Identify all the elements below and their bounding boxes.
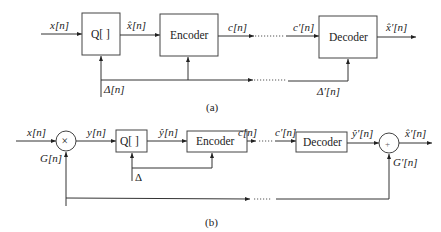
received-gain-label: G′[n] bbox=[393, 156, 417, 168]
quantized-label-a: x̂[n] bbox=[126, 19, 146, 31]
caption-b: (b) bbox=[205, 216, 218, 229]
gain-line bbox=[66, 198, 250, 199]
input-label-b: x[n] bbox=[26, 126, 46, 138]
decoder-label-a: Decoder bbox=[329, 31, 368, 43]
diagram-b: x[n] × G[n] y[n] Q[ ] ŷ[n] Encoder c[n] … bbox=[16, 126, 432, 229]
code-label-b: c[n] bbox=[238, 126, 257, 138]
plus-icon: + bbox=[385, 139, 390, 149]
code-label-a: c[n] bbox=[228, 21, 247, 33]
decoded-label: ŷ′[n] bbox=[351, 127, 373, 139]
caption-a: (a) bbox=[206, 101, 219, 114]
received-code-label-a: c′[n] bbox=[293, 21, 314, 33]
quantized-label-b: ŷ[n] bbox=[158, 126, 178, 138]
received-step-label-a: Δ′[n] bbox=[316, 85, 340, 97]
gain-label: G[n] bbox=[40, 152, 62, 164]
encoder-label-b: Encoder bbox=[196, 135, 234, 147]
input-label-a: x[n] bbox=[49, 19, 69, 31]
decoder-label-b: Decoder bbox=[303, 136, 342, 148]
step-label-a: Δ[n] bbox=[103, 83, 125, 95]
step-label-b: Δ bbox=[135, 171, 142, 183]
encoder-label-a: Encoder bbox=[170, 29, 208, 41]
output-label-b: x̂′[n] bbox=[404, 127, 426, 139]
multiply-icon: × bbox=[62, 135, 69, 147]
received-code-label-b: c′[n] bbox=[275, 126, 296, 138]
scaled-label: y[n] bbox=[86, 126, 106, 138]
quantizer-label-a: Q[ ] bbox=[91, 28, 110, 40]
output-label-a: x̂′[n] bbox=[385, 21, 407, 33]
diagram-a: x[n] Q[ ] x̂[n] Encoder c[n] c′[n] Decod… bbox=[41, 13, 416, 114]
diagram-canvas: x[n] Q[ ] x̂[n] Encoder c[n] c′[n] Decod… bbox=[0, 0, 441, 232]
quantizer-label-b: Q[ ] bbox=[120, 135, 139, 147]
